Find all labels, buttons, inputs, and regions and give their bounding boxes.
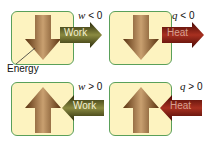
heat-in-condition: q > 0 [180, 80, 202, 92]
energy-down-arrow-icon [122, 15, 160, 61]
heat-in-label: Heat [170, 100, 191, 111]
work-out-condition: w < 0 [78, 9, 102, 21]
heat-out-label: Heat [167, 27, 188, 38]
work-in-condition: w > 0 [78, 80, 102, 92]
work-out-label: Work [64, 27, 87, 38]
heat-out-condition: q < 0 [172, 9, 194, 21]
energy-up-arrow-icon [122, 87, 160, 133]
work-in-label: Work [73, 100, 96, 111]
energy-label: Energy [7, 63, 39, 74]
energy-up-arrow-icon [24, 87, 62, 133]
